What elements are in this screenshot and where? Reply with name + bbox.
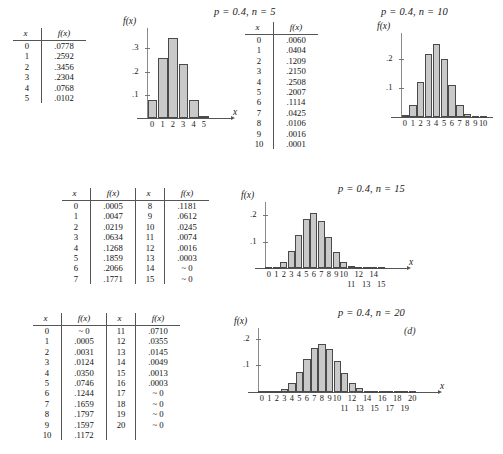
x-tick-label: 17 [382,404,398,413]
cell-x: 10 [33,430,62,440]
column-header-fx: f(x) [165,188,210,200]
cell-fx: ~ 0 [62,325,107,336]
table-row: 5.185913.0003 [62,253,209,263]
chart-n5: f(x)x.1.2.3012345 [121,18,216,138]
chart-title-n10: p = 0.4, n = 10 [381,6,448,17]
cell-x: 0 [33,325,62,336]
table-row: 0.0778 [13,40,86,51]
dist-table: xf(x)xf(x)0~ 011.07101.000512.03552.0031… [33,313,180,440]
table-row: 1.000512.0355 [33,336,180,346]
bar [148,100,158,118]
table-n5: xf(x)0.07781.25922.34563.23044.07685.010… [13,28,86,103]
dist-table: xf(x)0.00601.04042.12093.21504.25085.200… [245,22,318,149]
table-row: 4.0768 [13,83,86,93]
bar [433,44,440,117]
cell-x: 11 [107,325,136,336]
cell-fx: .0145 [136,347,181,357]
bar [288,251,295,268]
cell-fx: .0003 [136,378,181,388]
table-row: 7.177115~ 0 [62,274,209,284]
column-header-x: x [245,22,274,34]
table-row: 6.206614~ 0 [62,263,209,273]
cell-fx: ~ 0 [136,409,181,419]
y-tick-mark [145,72,150,73]
table-row: 3.2150 [245,66,318,76]
cell-fx: .0612 [165,211,210,221]
cell-fx: .0768 [42,83,87,93]
table-row: 5.074616.0003 [33,378,180,388]
y-axis-label: f(x) [234,316,247,326]
cell-fx: .1797 [62,409,107,419]
cell-x: 8 [33,409,62,419]
cell-x: 12 [107,336,136,346]
bar [402,115,409,117]
table-row: 2.003113.0145 [33,347,180,357]
cell-x [107,430,136,440]
column-header-x: x [33,313,62,325]
bar [456,105,463,117]
cell-fx [136,430,181,440]
bar [168,38,178,118]
cell-fx: .2592 [42,51,87,61]
y-tick-mark [256,365,261,366]
table-row: 0.00058.1181 [62,200,209,211]
cell-x: 3 [13,72,42,82]
cell-fx: .0005 [91,200,136,211]
x-tick-label: 15 [367,404,383,413]
bar [273,267,280,269]
chart-title-n5: p = 0.4, n = 5 [214,6,276,17]
bar [318,344,325,392]
x-tick-label: 15 [373,280,389,289]
table-row: 1.2592 [13,51,86,61]
x-tick-label: 10 [329,394,345,403]
dist-table: xf(x)0.07781.25922.34563.23044.07685.010… [13,28,86,103]
x-axis-label: x [233,107,237,117]
x-axis-line [137,118,231,119]
cell-x: 9 [33,420,62,430]
bar [448,85,455,117]
table-n10: xf(x)0.00601.04042.12093.21504.25085.200… [245,22,318,149]
bar [425,54,432,117]
cell-x: 12 [136,243,165,253]
cell-fx: .2007 [274,87,319,97]
cell-x: 15 [107,368,136,378]
table-n20: xf(x)xf(x)0~ 011.07101.000512.03552.0031… [33,313,180,440]
cell-x: 6 [62,263,91,273]
table-row: 8.0106 [245,118,318,128]
y-tick-mark [145,48,150,49]
x-tick-label: 12 [344,394,360,403]
cell-x: 7 [62,274,91,284]
cell-fx: .0634 [91,232,136,242]
x-tick-label: 18 [389,394,405,403]
y-tick-mark [399,59,404,60]
x-tick-label: 11 [343,280,359,289]
cell-x: 5 [62,253,91,263]
cell-x: 20 [107,420,136,430]
cell-x: 16 [107,378,136,388]
cell-x: 0 [13,40,42,51]
cell-x: 14 [136,263,165,273]
bar [334,361,341,392]
table-row: 3.2304 [13,72,86,82]
cell-x: 1 [33,336,62,346]
y-axis-line [401,33,402,117]
bar [296,372,303,392]
cell-fx: .0013 [136,368,181,378]
table-row: 8.179719~ 0 [33,409,180,419]
y-tick-label: .3 [132,42,138,52]
chart-title-n15: p = 0.4, n = 15 [338,183,405,194]
table-row: 9.0016 [245,129,318,139]
table-row: 9.159720~ 0 [33,420,180,430]
cell-x: 10 [245,139,274,149]
table-header-row: xf(x) [245,22,318,34]
cell-x: 3 [33,357,62,367]
cell-x: 5 [245,87,274,97]
cell-fx: .2150 [274,66,319,76]
bar [326,349,333,392]
x-axis-label: x [440,381,444,391]
table-row: 7.165918~ 0 [33,399,180,409]
table-row: 10.1172 [33,430,180,440]
cell-x: 14 [107,357,136,367]
cell-x: 0 [245,34,274,45]
table-row: 2.1209 [245,56,318,66]
